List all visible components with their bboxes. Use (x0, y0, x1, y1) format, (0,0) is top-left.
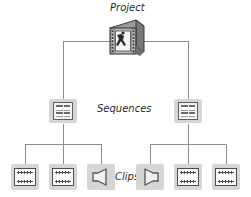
video-clip-icon (14, 168, 36, 186)
sequence-icon (53, 102, 73, 120)
connector-sequence-1-to-clip-1 (25, 144, 26, 164)
film-perforations-top (55, 171, 71, 174)
film-perforations-bottom (218, 180, 234, 183)
sequence-node-2[interactable] (174, 99, 202, 123)
sequence-icon (178, 102, 198, 120)
project-film-icon (106, 16, 146, 62)
audio-clip-icon (91, 168, 111, 186)
clip-node-2[interactable] (49, 164, 77, 190)
video-clip-icon (215, 168, 237, 186)
project-node[interactable] (106, 16, 146, 62)
film-perforations-top (218, 171, 234, 174)
connector-sequence-2-to-clip-6 (226, 144, 227, 164)
audio-clip-icon (140, 168, 160, 186)
video-clip-icon (177, 168, 199, 186)
film-perforations-top (17, 171, 33, 174)
connector-project-to-sequence-2 (188, 41, 189, 100)
project-label: Project (110, 2, 145, 13)
video-clip-icon (52, 168, 74, 186)
sequence-pane (64, 112, 71, 118)
sequence-pane (56, 105, 63, 111)
connector-sequence-1-to-clip-3 (101, 144, 102, 164)
connector-sequence-2-to-clip-5 (188, 144, 189, 164)
connector-sequence-1-stem (63, 124, 64, 144)
sequence-pane (181, 105, 188, 111)
film-perforations-top (180, 171, 196, 174)
film-perforations-bottom (55, 180, 71, 183)
sequence-pane (181, 112, 188, 118)
clip-node-3[interactable] (87, 164, 115, 190)
connector-sequence-2-stem (188, 124, 189, 144)
connector-sequence-1-to-clip-2 (63, 144, 64, 164)
connector-project-to-sequence-1 (63, 41, 64, 100)
sequence-pane (64, 105, 71, 111)
clip-node-1[interactable] (11, 164, 39, 190)
sequence-pane (189, 112, 196, 118)
diagram-canvas: Project Sequences Clips (0, 0, 251, 197)
clip-node-6[interactable] (212, 164, 240, 190)
clip-node-5[interactable] (174, 164, 202, 190)
sequence-pane (189, 105, 196, 111)
clip-node-4[interactable] (136, 164, 164, 190)
sequence-node-1[interactable] (49, 99, 77, 123)
film-perforations-bottom (17, 180, 33, 183)
sequences-label: Sequences (97, 103, 152, 114)
film-perforations-bottom (180, 180, 196, 183)
connector-sequence-2-to-clip-4 (150, 144, 151, 164)
sequence-pane (56, 112, 63, 118)
